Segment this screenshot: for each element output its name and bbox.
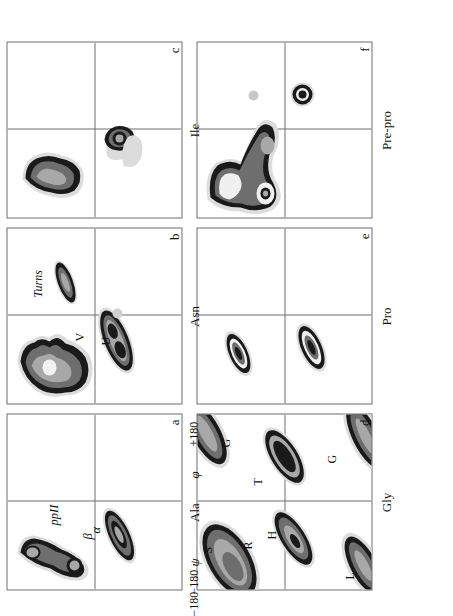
panel-c-psi-zero-line	[94, 42, 95, 217]
contour-alpha	[99, 503, 139, 567]
panel-title-ile: Ile	[186, 110, 202, 150]
y-axis-label: ψ	[186, 558, 202, 566]
x-axis-min-label: −180	[186, 569, 201, 594]
region-label-v: V	[73, 332, 85, 341]
panel-a-ala: β ppII α a	[6, 413, 182, 590]
region-label-h: H	[265, 530, 277, 539]
panel-f-psi-zero-line	[284, 42, 285, 217]
panel-title-ala: Ala	[186, 492, 202, 532]
region-label-alpha: α	[89, 526, 102, 533]
contour-minor-speck	[247, 89, 259, 101]
panel-title-asn: Asn	[186, 296, 202, 336]
panel-letter-d: d	[357, 419, 370, 426]
contour-alpha-ring	[289, 81, 315, 107]
contour-alpha-tail	[119, 125, 145, 171]
panel-c-ile: c	[6, 41, 182, 218]
contour-l	[337, 527, 372, 590]
panel-d-psi-zero-line	[284, 414, 285, 589]
region-label-s: S	[201, 546, 213, 553]
x-axis-max-label: +180	[186, 421, 201, 446]
y-axis-min-label: −180	[186, 591, 201, 616]
panel-b-asn: U V Turns b	[6, 227, 182, 404]
x-axis-label: φ	[186, 471, 202, 478]
contour-beta-u	[15, 313, 97, 399]
panel-letter-f: f	[357, 47, 370, 51]
region-label-r: R	[241, 541, 253, 549]
panel-f-prepro: f	[196, 41, 372, 218]
contour-alpha	[293, 319, 329, 375]
panel-e-pro: e	[196, 227, 372, 404]
contour-ppii	[221, 327, 255, 379]
panel-e-psi-zero-line	[284, 228, 285, 403]
region-label-g-top: G	[219, 438, 231, 447]
panel-d-gly: S R H L G T G d	[196, 413, 372, 590]
contour-minor-speck	[111, 307, 123, 319]
panel-title-prepro: Pre-pro	[378, 98, 394, 162]
panel-letter-b: b	[167, 233, 180, 240]
panel-letter-e: e	[357, 233, 370, 239]
region-label-ppii: ppII	[47, 504, 60, 525]
region-label-t: T	[251, 478, 263, 485]
contour-turns	[51, 257, 79, 307]
region-label-l: L	[343, 572, 355, 579]
region-label-beta: β	[81, 533, 94, 539]
panel-a-psi-zero-line	[94, 414, 95, 589]
panel-letter-a: a	[167, 419, 180, 425]
panel-title-pro: Pro	[378, 296, 394, 336]
panel-title-gly: Gly	[378, 482, 394, 522]
contour-alpha	[99, 115, 143, 161]
panel-b-psi-zero-line	[94, 228, 95, 403]
region-label-u: U	[99, 336, 111, 345]
region-label-turns: Turns	[31, 270, 43, 297]
contour-beta	[19, 141, 87, 203]
panel-letter-c: c	[167, 47, 180, 53]
region-label-g-bottom: G	[325, 454, 337, 463]
